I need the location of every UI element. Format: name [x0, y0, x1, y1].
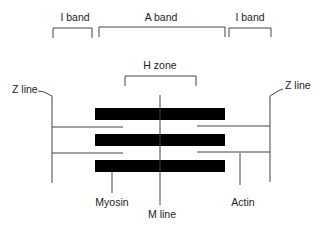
m-line-label: M line — [148, 208, 176, 220]
i-band-right-bracket — [229, 28, 271, 37]
a-band-bracket — [99, 27, 225, 37]
h-zone-label: H zone — [143, 59, 176, 71]
z-line-right-label: Z line — [285, 79, 311, 91]
h-zone-bracket — [125, 76, 196, 86]
actin-label: Actin — [231, 196, 255, 208]
z-line-left-label: Z line — [12, 83, 38, 95]
a-band-label: A band — [145, 11, 178, 23]
i-band-left-label: I band — [60, 11, 89, 23]
z-line-left-leader — [38, 91, 52, 96]
i-band-left-bracket — [53, 28, 92, 38]
sarcomere-diagram: I band A band I band H zone Z line Z lin… — [0, 0, 320, 227]
z-line-right-leader — [270, 89, 283, 96]
myosin-label: Myosin — [95, 196, 128, 208]
i-band-right-label: I band — [235, 11, 264, 23]
